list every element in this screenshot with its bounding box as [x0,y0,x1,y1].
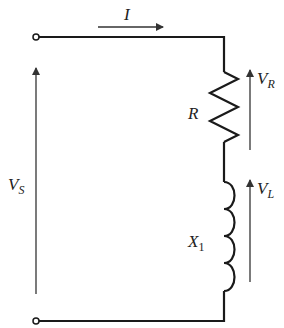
vs-label-sub: S [18,183,24,197]
vr-label-sub: R [266,77,275,91]
current-label: I [123,5,131,24]
vs-label: VS [8,175,24,197]
vl-label-sub: L [266,187,274,201]
circuit-svg: I VS VR R VL X1 [0,0,284,328]
vl-label: VL [257,179,274,201]
circuit-diagram: I VS VR R VL X1 [0,0,284,328]
inductor-label: X1 [187,232,204,254]
terminal-bottom-icon [33,318,39,324]
resistor-label: R [187,104,199,123]
inductor-label-main: X [187,232,199,251]
inductor-label-sub: 1 [198,240,204,254]
inductor-symbol [224,182,235,291]
terminal-top-icon [33,34,39,40]
resistor-symbol [210,72,238,142]
vr-label: VR [257,69,275,91]
